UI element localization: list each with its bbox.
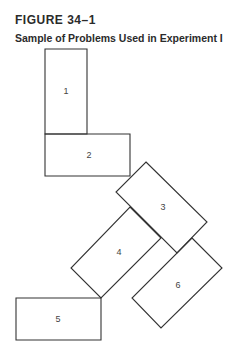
rectangle-2: 2 (45, 134, 130, 176)
rectangle-number: 6 (175, 280, 180, 290)
rectangle-number: 5 (55, 314, 60, 324)
rectangle-number: 2 (86, 150, 91, 160)
rectangle-number: 3 (160, 202, 165, 212)
rectangle-1: 1 (45, 49, 87, 134)
rectangles-diagram: 123456 (0, 0, 237, 359)
rectangle-5: 5 (16, 298, 101, 340)
rectangle-6: 6 (132, 238, 222, 328)
rectangle-number: 1 (63, 86, 68, 96)
rectangle-number: 4 (116, 247, 121, 257)
rectangle-4: 4 (71, 207, 161, 298)
